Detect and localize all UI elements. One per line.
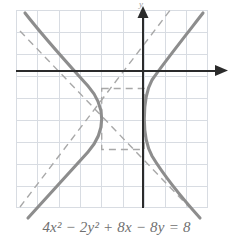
hyperbola-figure: y 4x² − 2y² + 8x − 8y = 8	[0, 0, 233, 248]
equation-caption: 4x² − 2y² + 8x − 8y = 8	[0, 219, 233, 236]
y-axis-label: y	[138, 0, 143, 9]
x-axis-arrowhead	[215, 65, 228, 76]
plot-background	[16, 10, 208, 208]
graph-canvas: y	[0, 0, 233, 248]
